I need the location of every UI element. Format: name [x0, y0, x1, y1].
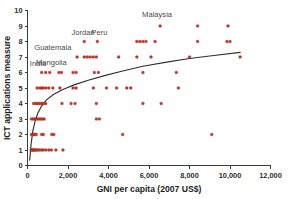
data-point — [83, 40, 86, 43]
y-tick-label: 8 — [18, 37, 22, 46]
data-point — [55, 149, 58, 152]
data-point — [150, 56, 153, 59]
data-point — [53, 133, 56, 136]
y-tick-label: 9 — [18, 22, 22, 31]
data-point — [115, 87, 118, 90]
y-tick-label: 3 — [18, 115, 22, 124]
country-label-peru: Peru — [91, 28, 107, 37]
x-tick-label: 6,000 — [140, 171, 159, 180]
data-point — [177, 87, 180, 90]
data-point — [229, 40, 232, 43]
data-point — [74, 102, 77, 105]
data-point — [44, 71, 47, 74]
data-point — [95, 118, 98, 121]
data-point — [121, 133, 124, 136]
data-point — [40, 71, 43, 74]
y-axis-title: ICT applications measure — [2, 36, 12, 140]
data-point — [97, 71, 100, 74]
x-tick-label: 0 — [25, 171, 29, 180]
data-point — [117, 56, 120, 59]
data-point — [44, 87, 47, 90]
data-point — [42, 133, 45, 136]
data-point — [83, 56, 86, 59]
data-point — [43, 118, 46, 121]
data-point — [188, 56, 191, 59]
y-tick-label: 2 — [18, 130, 22, 139]
x-tick-label: 12,000 — [259, 171, 282, 180]
x-axis-title: GNI per capita (2007 US$) — [97, 184, 202, 194]
y-tick-label: 5 — [18, 84, 22, 93]
data-point — [50, 149, 53, 152]
data-point — [136, 56, 139, 59]
data-point — [58, 71, 61, 74]
y-tick-label: 1 — [18, 146, 22, 155]
data-point — [42, 87, 45, 90]
chart-canvas: 01234567891002,0004,0006,0008,00010,0001… — [0, 0, 295, 199]
data-point — [92, 87, 95, 90]
data-point — [62, 149, 65, 152]
trend-line — [30, 52, 240, 160]
data-point — [72, 87, 75, 90]
data-point — [142, 102, 145, 105]
data-point — [60, 71, 63, 74]
data-point — [52, 87, 55, 90]
data-point — [96, 40, 99, 43]
data-point — [47, 149, 50, 152]
data-point — [125, 87, 128, 90]
data-point — [196, 40, 199, 43]
data-point — [36, 87, 39, 90]
country-label-malaysia: Malaysia — [142, 10, 173, 19]
data-point — [159, 25, 162, 28]
data-point — [47, 87, 50, 90]
data-point — [42, 149, 45, 152]
data-point — [95, 102, 98, 105]
data-point — [129, 87, 132, 90]
data-point — [75, 71, 78, 74]
data-point — [75, 87, 78, 90]
data-point — [35, 133, 38, 136]
country-label-guatemala: Guatemala — [34, 43, 72, 52]
y-tick-label: 7 — [18, 53, 22, 62]
data-point — [86, 56, 89, 59]
y-tick-label: 0 — [18, 161, 22, 170]
data-point — [142, 40, 145, 43]
y-tick-label: 6 — [18, 68, 22, 77]
data-point — [142, 71, 145, 74]
data-point — [76, 56, 79, 59]
data-point — [95, 56, 98, 59]
data-point — [226, 40, 229, 43]
data-point — [89, 56, 92, 59]
data-point — [48, 71, 51, 74]
chart-axes — [28, 11, 271, 166]
data-point — [72, 71, 75, 74]
data-point — [61, 102, 64, 105]
country-label-mongolia: Mongolia — [36, 58, 68, 67]
data-point — [92, 56, 95, 59]
x-tick-label: 8,000 — [180, 171, 199, 180]
data-point — [136, 40, 139, 43]
data-point — [93, 71, 96, 74]
data-point — [105, 87, 108, 90]
x-tick-label: 4,000 — [99, 171, 118, 180]
data-point — [196, 25, 199, 28]
data-point — [227, 25, 230, 28]
x-tick-label: 10,000 — [219, 171, 242, 180]
data-point — [154, 40, 157, 43]
data-point — [98, 118, 101, 121]
data-point — [239, 56, 242, 59]
ict-gni-scatter-chart: 01234567891002,0004,0006,0008,00010,0001… — [0, 0, 295, 199]
data-point — [59, 87, 62, 90]
data-point — [139, 40, 142, 43]
data-point — [160, 102, 163, 105]
x-tick-label: 2,000 — [59, 171, 78, 180]
data-point — [175, 71, 178, 74]
data-point — [70, 102, 73, 105]
data-point — [210, 133, 213, 136]
data-point — [44, 102, 47, 105]
data-point — [44, 149, 47, 152]
y-tick-label: 10 — [14, 6, 22, 15]
data-point — [145, 40, 148, 43]
y-tick-label: 4 — [18, 99, 23, 108]
